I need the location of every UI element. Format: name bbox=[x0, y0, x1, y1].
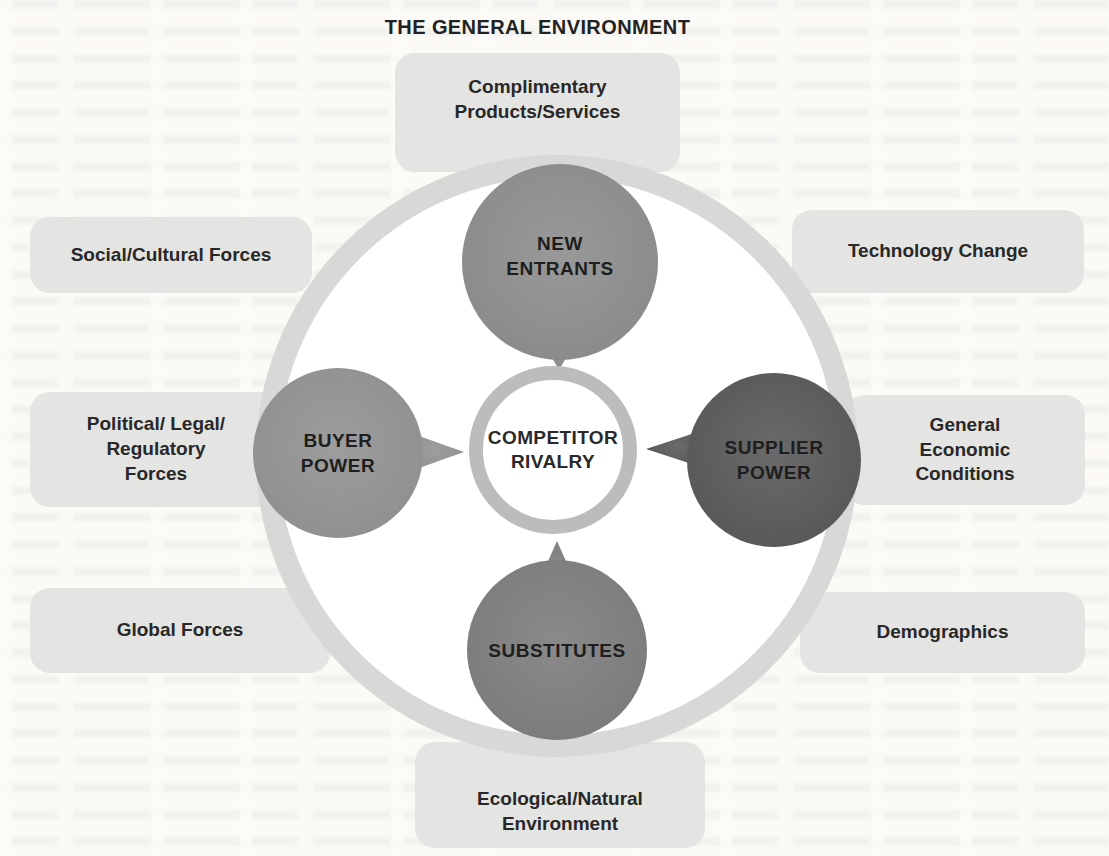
buyer-power-label: POWER bbox=[301, 455, 375, 476]
five-forces-diagram: NEW ENTRANTS BUYER POWER SUPPLIER POWER … bbox=[0, 0, 1109, 856]
buyer-power-label: BUYER bbox=[303, 430, 372, 451]
force-competitor-rivalry: COMPETITOR RIVALRY bbox=[476, 373, 630, 527]
substitutes-label: SUBSTITUTES bbox=[488, 640, 625, 661]
new-entrants-label: ENTRANTS bbox=[506, 258, 613, 279]
competitor-rivalry-label: RIVALRY bbox=[511, 451, 595, 472]
buyer-power-circle bbox=[253, 368, 423, 538]
new-entrants-label: NEW bbox=[537, 233, 583, 254]
competitor-rivalry-ring bbox=[476, 373, 630, 527]
scanned-book-page: THE GENERAL ENVIRONMENT Complimentary Pr… bbox=[0, 0, 1109, 856]
competitor-rivalry-label: COMPETITOR bbox=[488, 427, 618, 448]
supplier-power-label: SUPPLIER bbox=[724, 437, 823, 458]
supplier-power-label: POWER bbox=[737, 462, 811, 483]
supplier-power-circle bbox=[687, 373, 861, 547]
diagram-title: THE GENERAL ENVIRONMENT bbox=[295, 16, 780, 39]
